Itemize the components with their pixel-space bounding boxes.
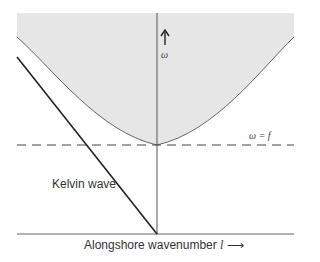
inertial-frequency-label: ω = f: [249, 130, 271, 141]
right-arrow-icon: ⟶: [227, 238, 244, 252]
x-axis-text: Alongshore wavenumber: [84, 238, 217, 252]
kelvin-wave-label: Kelvin wave: [52, 177, 116, 191]
x-axis-label: Alongshore wavenumber l ⟶: [84, 238, 244, 253]
y-axis-label: ω: [161, 49, 168, 60]
x-axis-symbol: l: [220, 238, 223, 252]
